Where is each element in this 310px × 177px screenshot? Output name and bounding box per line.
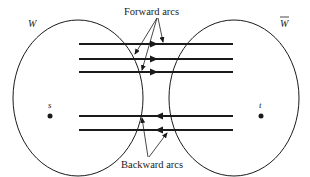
backward-label-pointers xyxy=(142,118,167,157)
source-node xyxy=(48,114,53,119)
backward-arcs xyxy=(79,116,233,130)
forward-arcs xyxy=(79,44,233,72)
cut-diagram: W W s t Forward arcs Backward arcs xyxy=(0,0,310,177)
source-label: s xyxy=(48,100,52,110)
forward-arcs-label: Forward arcs xyxy=(124,6,179,17)
set-w-bar-label: W xyxy=(280,18,290,29)
set-w-label: W xyxy=(28,18,38,29)
sink-node xyxy=(259,114,264,119)
backward-arrowheads xyxy=(155,113,163,134)
sink-label: t xyxy=(259,100,262,110)
backward-arcs-label: Backward arcs xyxy=(121,159,183,170)
